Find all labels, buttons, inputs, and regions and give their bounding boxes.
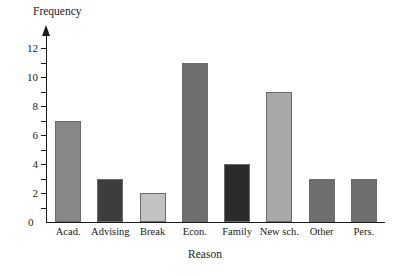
y-axis-tick xyxy=(41,77,47,78)
y-axis-tick xyxy=(41,135,47,136)
y-axis-tick xyxy=(41,121,47,122)
x-axis-title: Reason xyxy=(188,248,222,260)
y-axis-origin-label: 0 xyxy=(28,216,34,228)
x-axis-tick-label: Pers. xyxy=(354,226,375,237)
x-axis-tick-label: Other xyxy=(310,226,334,237)
y-axis-tick xyxy=(41,193,47,194)
bar xyxy=(266,92,292,223)
y-axis-tick xyxy=(41,208,47,209)
y-axis-tick xyxy=(41,106,47,107)
x-axis-tick-label: Acad. xyxy=(56,226,81,237)
y-axis-tick xyxy=(41,63,47,64)
y-axis-title: Frequency xyxy=(33,5,82,17)
y-axis-tick xyxy=(41,179,47,180)
y-axis-tick xyxy=(41,150,47,151)
bar xyxy=(55,121,81,223)
y-axis-tick-label: 10 xyxy=(16,71,38,83)
x-axis-tick-label: Break xyxy=(140,226,165,237)
bar xyxy=(309,179,335,223)
x-axis-tick-label: Econ. xyxy=(183,226,207,237)
y-axis-tick xyxy=(41,92,47,93)
x-axis-tick-label: Family xyxy=(222,226,252,237)
bar xyxy=(140,193,166,222)
x-axis-tick-label: New sch. xyxy=(260,226,299,237)
x-axis-line xyxy=(46,222,385,223)
y-axis-tick xyxy=(41,164,47,165)
y-axis-tick-label: 12 xyxy=(16,42,38,54)
y-axis-tick-labels: 24681012 xyxy=(0,0,38,276)
x-axis-tick-label: Advising xyxy=(91,226,130,237)
bar xyxy=(97,179,123,223)
y-axis-tick-label: 2 xyxy=(16,187,38,199)
bar xyxy=(224,164,250,222)
bar-chart: Frequency 24681012 0 Acad.AdvisingBreakE… xyxy=(0,0,404,276)
y-axis-tick-label: 6 xyxy=(16,129,38,141)
y-axis-tick-label: 8 xyxy=(16,100,38,112)
y-axis-tick-label: 4 xyxy=(16,158,38,170)
bar xyxy=(351,179,377,223)
plot-area xyxy=(47,34,385,222)
bar xyxy=(182,63,208,223)
y-axis-tick xyxy=(41,48,47,49)
